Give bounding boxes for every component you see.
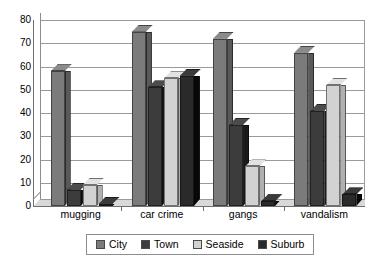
bar	[99, 204, 113, 206]
chart-legend: CityTownSeasideSuburb	[86, 234, 314, 255]
bar	[148, 87, 162, 206]
bar-front-face	[67, 190, 81, 206]
legend-swatch-icon	[96, 240, 105, 249]
y-axis-tick-label: 50	[1, 85, 31, 95]
bar-front-face	[51, 71, 65, 206]
y-axis-tick-label: 70	[1, 38, 31, 48]
bar-side-face	[65, 71, 71, 206]
bar-front-face	[294, 53, 308, 206]
bar-front-face	[83, 185, 97, 206]
legend-item: Seaside	[193, 239, 244, 250]
bar	[83, 185, 97, 206]
bar-front-face	[229, 125, 243, 206]
x-axis-category-label: vandalism	[284, 209, 365, 220]
bar-side-face	[340, 85, 346, 206]
legend-label: Seaside	[206, 239, 244, 250]
bar-top-face	[326, 78, 347, 85]
y-axis-tick-label: 20	[1, 155, 31, 165]
legend-label: Suburb	[271, 239, 305, 250]
bar-front-face	[213, 39, 227, 206]
bar-side-face	[356, 194, 362, 206]
bar	[180, 76, 194, 206]
bar-front-face	[180, 76, 194, 206]
bar	[261, 201, 275, 206]
bar	[245, 166, 259, 206]
bar-front-face	[99, 204, 113, 206]
bar-front-face	[148, 87, 162, 206]
y-axis-tick-label: 40	[1, 108, 31, 118]
x-axis-tick-mark	[203, 206, 204, 211]
legend-swatch-icon	[193, 240, 202, 249]
bar-top-face	[294, 46, 315, 53]
bar	[51, 71, 65, 206]
bar-front-face	[132, 32, 146, 206]
legend-item: Town	[141, 239, 179, 250]
bar	[342, 194, 356, 206]
bar-side-face	[194, 76, 200, 206]
y-axis-line	[33, 20, 34, 206]
bar	[213, 39, 227, 206]
bar	[164, 78, 178, 206]
bar-front-face	[342, 194, 356, 206]
y-axis-tick-label: 60	[1, 62, 31, 72]
bar-front-face	[261, 201, 275, 206]
bar-front-face	[164, 78, 178, 206]
bar	[132, 32, 146, 206]
bar-front-face	[245, 166, 259, 206]
bar	[229, 125, 243, 206]
bar-top-face	[132, 25, 153, 32]
bar	[310, 111, 324, 206]
bar-side-face	[113, 204, 119, 206]
legend-swatch-icon	[258, 240, 267, 249]
x-axis-line	[33, 206, 365, 207]
bar-chart: 01020304050607080 muggingcar crimegangsv…	[0, 0, 378, 267]
bar	[67, 190, 81, 206]
x-axis-tick-mark	[121, 206, 122, 211]
bar-top-face	[83, 178, 104, 185]
x-axis-category-label: gangs	[203, 209, 284, 220]
x-axis-category-label: mugging	[40, 209, 121, 220]
bar	[294, 53, 308, 206]
bar	[326, 85, 340, 206]
y-axis-tick-label: 0	[1, 201, 31, 211]
x-axis-tick-mark	[284, 206, 285, 211]
x-axis-category-label: car crime	[121, 209, 202, 220]
y-axis-tick-label: 30	[1, 131, 31, 141]
y-axis-tick-label: 80	[1, 15, 31, 25]
bar-front-face	[326, 85, 340, 206]
legend-item: Suburb	[258, 239, 305, 250]
legend-label: City	[109, 239, 127, 250]
bar-top-face	[213, 32, 234, 39]
y-axis-tick-label: 10	[1, 178, 31, 188]
legend-label: Town	[154, 239, 179, 250]
legend-swatch-icon	[141, 240, 150, 249]
bars-layer	[40, 13, 372, 206]
bar-front-face	[310, 111, 324, 206]
y-axis-ticks: 01020304050607080	[0, 20, 31, 206]
bar-top-face	[51, 64, 72, 71]
bar-side-face	[275, 201, 281, 206]
legend-item: City	[96, 239, 127, 250]
